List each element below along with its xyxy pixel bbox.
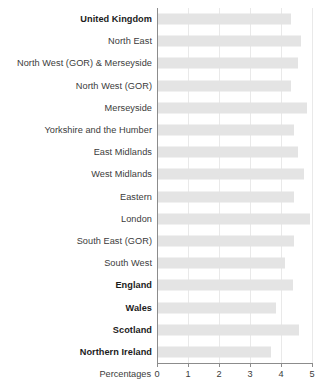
- bar: [158, 280, 293, 291]
- x-axis-ticks: [157, 363, 313, 368]
- bar-row: Northern Ireland: [0, 341, 319, 363]
- bar: [158, 36, 301, 47]
- category-label: United Kingdom: [80, 14, 152, 24]
- category-label: Yorkshire and the Humber: [44, 125, 152, 135]
- bar: [158, 58, 298, 69]
- category-label: Northern Ireland: [80, 347, 152, 357]
- category-label: Scotland: [113, 325, 152, 335]
- bar-row: Yorkshire and the Humber: [0, 119, 319, 141]
- category-label: North East: [108, 36, 152, 46]
- category-label: South East (GOR): [77, 236, 152, 246]
- bar-row: North West (GOR): [0, 75, 319, 97]
- x-axis-tick-label: 2: [216, 369, 221, 379]
- bar: [158, 169, 304, 180]
- category-label: Wales: [126, 303, 152, 313]
- bar: [158, 213, 310, 224]
- category-label: Merseyside: [105, 103, 152, 113]
- x-axis-tick-label: 3: [247, 369, 252, 379]
- bar-row: North West (GOR) & Merseyside: [0, 52, 319, 74]
- bar-row: East Midlands: [0, 141, 319, 163]
- bar: [158, 147, 298, 158]
- bar: [158, 346, 271, 357]
- category-label: London: [121, 214, 152, 224]
- bar: [158, 125, 294, 136]
- bar: [158, 191, 294, 202]
- category-label: England: [115, 280, 152, 290]
- bar-row: Scotland: [0, 319, 319, 341]
- bar-row: South West: [0, 252, 319, 274]
- x-axis-tick: [219, 363, 220, 367]
- x-axis-tick-label: 0: [154, 369, 159, 379]
- bar: [158, 235, 294, 246]
- category-label: East Midlands: [94, 147, 152, 157]
- category-label: Eastern: [120, 192, 152, 202]
- bar: [158, 14, 291, 25]
- category-label: South West: [104, 258, 152, 268]
- category-label: West Midlands: [91, 169, 152, 179]
- bar-row: South East (GOR): [0, 230, 319, 252]
- bar-row: Eastern: [0, 186, 319, 208]
- bar: [158, 258, 285, 269]
- x-axis-tick: [312, 363, 313, 367]
- category-label: North West (GOR) & Merseyside: [17, 58, 152, 68]
- x-axis-tick-label: 1: [185, 369, 190, 379]
- bar-row: North East: [0, 30, 319, 52]
- bar-row: Merseyside: [0, 97, 319, 119]
- bar-row: West Midlands: [0, 163, 319, 185]
- bar: [158, 80, 291, 91]
- bar: [158, 302, 276, 313]
- x-axis-tick-labels: 012345: [157, 369, 313, 383]
- x-axis-tick: [157, 363, 158, 367]
- bar-row: London: [0, 208, 319, 230]
- category-label: North West (GOR): [76, 81, 152, 91]
- bar: [158, 102, 307, 113]
- x-axis-tick-label: 5: [309, 369, 314, 379]
- x-axis-tick: [281, 363, 282, 367]
- bar: [158, 324, 299, 335]
- bar-chart: United KingdomNorth EastNorth West (GOR)…: [0, 0, 319, 391]
- bar-row: Wales: [0, 296, 319, 318]
- x-axis-tick: [250, 363, 251, 367]
- bar-rows: United KingdomNorth EastNorth West (GOR)…: [0, 8, 319, 363]
- bar-row: United Kingdom: [0, 8, 319, 30]
- x-axis-title: Percentages: [99, 369, 151, 379]
- x-axis-tick-label: 4: [278, 369, 283, 379]
- x-axis-tick: [188, 363, 189, 367]
- bar-row: England: [0, 274, 319, 296]
